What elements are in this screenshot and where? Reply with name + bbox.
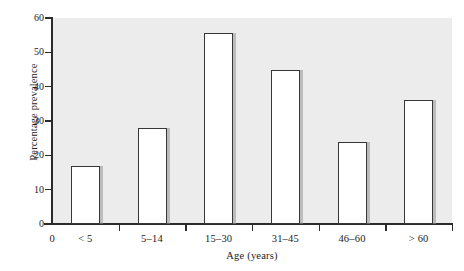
y-axis-tick-label-wrap: 10 — [8, 185, 44, 195]
y-axis-tick-label: 20 — [14, 150, 44, 160]
y-axis-tick-label: 30 — [14, 116, 44, 126]
x-axis-line — [44, 223, 453, 225]
x-axis-tick — [119, 225, 120, 231]
y-axis-tick-label-wrap: 20 — [8, 150, 44, 160]
y-axis-tick — [45, 120, 51, 121]
x-axis-tick — [319, 225, 320, 231]
x-axis-title: Age (years) — [52, 250, 452, 261]
bar — [271, 70, 300, 225]
x-axis-category-label: < 5 — [50, 233, 120, 245]
x-axis-tick — [185, 225, 186, 231]
y-axis-tick-label-wrap: 30 — [8, 116, 44, 126]
bar — [404, 100, 433, 224]
x-axis-category-label: 46–60 — [317, 233, 387, 245]
y-axis-tick-label-wrap: 40 — [8, 82, 44, 92]
x-axis-category-label: 5–14 — [117, 233, 187, 245]
y-axis-tick — [45, 52, 51, 53]
x-axis-tick — [452, 225, 453, 231]
bar-chart-figure: Percentage prevalence 01020304050600< 55… — [0, 0, 464, 271]
y-axis-tick-label: 60 — [14, 13, 44, 23]
x-axis-category-label: 15–30 — [184, 233, 254, 245]
bar — [138, 128, 167, 224]
plot-area — [52, 18, 452, 224]
y-axis-tick-label-wrap: 0 — [8, 219, 44, 229]
x-axis-category-label: > 60 — [384, 233, 454, 245]
y-axis-tick-label-wrap: 60 — [8, 13, 44, 23]
x-axis-category-label: 31–45 — [250, 233, 320, 245]
y-axis-tick-label-wrap: 50 — [8, 47, 44, 57]
y-axis-tick-label: 0 — [14, 219, 44, 229]
y-axis-tick — [45, 86, 51, 87]
bar — [204, 33, 233, 224]
y-axis-tick — [45, 17, 51, 18]
y-axis-tick — [45, 223, 51, 224]
y-axis-line — [51, 17, 53, 225]
bar — [71, 166, 100, 224]
y-axis-tick-label: 10 — [14, 185, 44, 195]
x-axis-tick — [385, 225, 386, 231]
y-axis-tick — [45, 189, 51, 190]
y-axis-tick — [45, 155, 51, 156]
y-axis-tick-label: 50 — [14, 47, 44, 57]
y-axis-tick-label: 40 — [14, 82, 44, 92]
x-axis-tick — [252, 225, 253, 231]
bar — [338, 142, 367, 224]
